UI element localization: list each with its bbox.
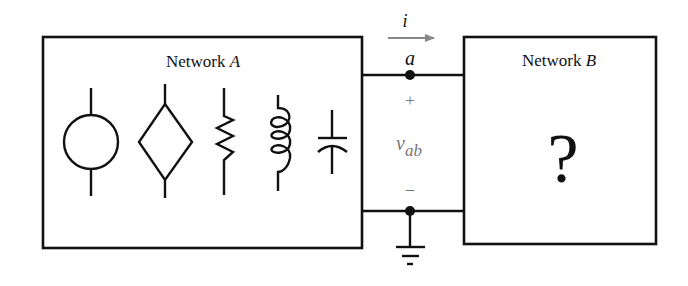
dependent-source-icon	[139, 84, 192, 198]
plus-sign: +	[405, 91, 415, 110]
node-a-label: a	[405, 47, 415, 69]
unknown-network-question-mark: ?	[547, 120, 578, 197]
ground-icon	[396, 211, 425, 264]
current-arrow: i	[388, 11, 434, 38]
resistor-icon	[217, 88, 233, 195]
node-a-dot	[405, 70, 415, 80]
network-a: Network A	[43, 37, 362, 248]
minus-sign: –	[405, 179, 415, 198]
capacitor-icon	[318, 110, 347, 174]
independent-source-icon	[64, 88, 118, 196]
inductor-icon	[271, 95, 290, 191]
voltage-label: vab	[396, 132, 422, 160]
circuit-diagram: Network A	[0, 0, 688, 286]
current-label: i	[402, 11, 407, 31]
network-b: Network B ?	[464, 37, 656, 244]
network-b-label: Network B	[522, 51, 597, 70]
network-a-label: Network A	[166, 52, 241, 71]
